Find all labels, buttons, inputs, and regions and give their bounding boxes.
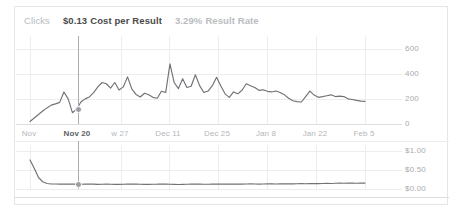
- x-label-jan-8[interactable]: Jan 8: [256, 129, 276, 138]
- cursor-point-marker[interactable]: [75, 181, 82, 188]
- cost-per-result-chart-panel[interactable]: $1.00$0.50$0.00: [15, 141, 449, 205]
- x-label-nov[interactable]: Nov: [22, 129, 37, 138]
- y-axis-tick-label: 400: [405, 69, 419, 78]
- panel-divider: [15, 141, 449, 142]
- y-axis-tick-label: 600: [405, 44, 419, 53]
- x-label-feb-5[interactable]: Feb 5: [354, 129, 375, 138]
- cost-per-result-plot-area[interactable]: [16, 145, 402, 189]
- axis-baseline: [16, 124, 402, 125]
- y-axis-tick-label: $1.00: [405, 146, 426, 155]
- x-label-dec-25[interactable]: Dec 25: [204, 129, 230, 138]
- screenshot-root: Clicks $0.13 Cost per Result 3.29% Resul…: [0, 0, 461, 211]
- clicks-chart-panel[interactable]: 6004002000 Nov Nov 20 w 27 Dec 11 Dec 25…: [15, 33, 449, 141]
- metrics-chart-card: Clicks $0.13 Cost per Result 3.29% Resul…: [14, 6, 448, 205]
- clicks-y-axis-labels: 6004002000: [405, 36, 449, 124]
- metrics-summary-bar: Clicks $0.13 Cost per Result 3.29% Resul…: [15, 7, 447, 33]
- metric-result-rate-label: Result Rate: [205, 15, 258, 26]
- cost-per-result-line-series: [16, 145, 402, 189]
- gridline-horizontal: [16, 189, 402, 190]
- metric-cost-per-result-label: Cost per Result: [90, 15, 162, 26]
- metric-result-rate[interactable]: 3.29% Result Rate: [175, 15, 259, 26]
- metric-result-rate-value: 3.29%: [175, 15, 202, 26]
- y-axis-tick-label: $0.00: [405, 184, 426, 193]
- y-axis-tick-label: $0.50: [405, 165, 426, 174]
- metric-cost-per-result-value: $0.13: [63, 15, 87, 26]
- cursor-point-marker[interactable]: [75, 106, 82, 113]
- clicks-plot-area[interactable]: [16, 36, 402, 124]
- x-label-jan-22[interactable]: Jan 22: [303, 129, 328, 138]
- bottom-axis-baseline: [15, 197, 449, 198]
- metric-clicks-label: Clicks: [24, 15, 50, 26]
- clicks-line-series: [16, 36, 402, 124]
- x-label-nov-20-selected[interactable]: Nov 20: [59, 127, 96, 140]
- metric-cost-per-result[interactable]: $0.13 Cost per Result: [63, 15, 162, 26]
- y-axis-tick-label: 200: [405, 94, 419, 103]
- metric-clicks[interactable]: Clicks: [24, 15, 50, 26]
- x-label-nov-27[interactable]: w 27: [111, 129, 128, 138]
- cost-y-axis-labels: $1.00$0.50$0.00: [405, 145, 449, 189]
- x-label-dec-11[interactable]: Dec 11: [155, 129, 180, 138]
